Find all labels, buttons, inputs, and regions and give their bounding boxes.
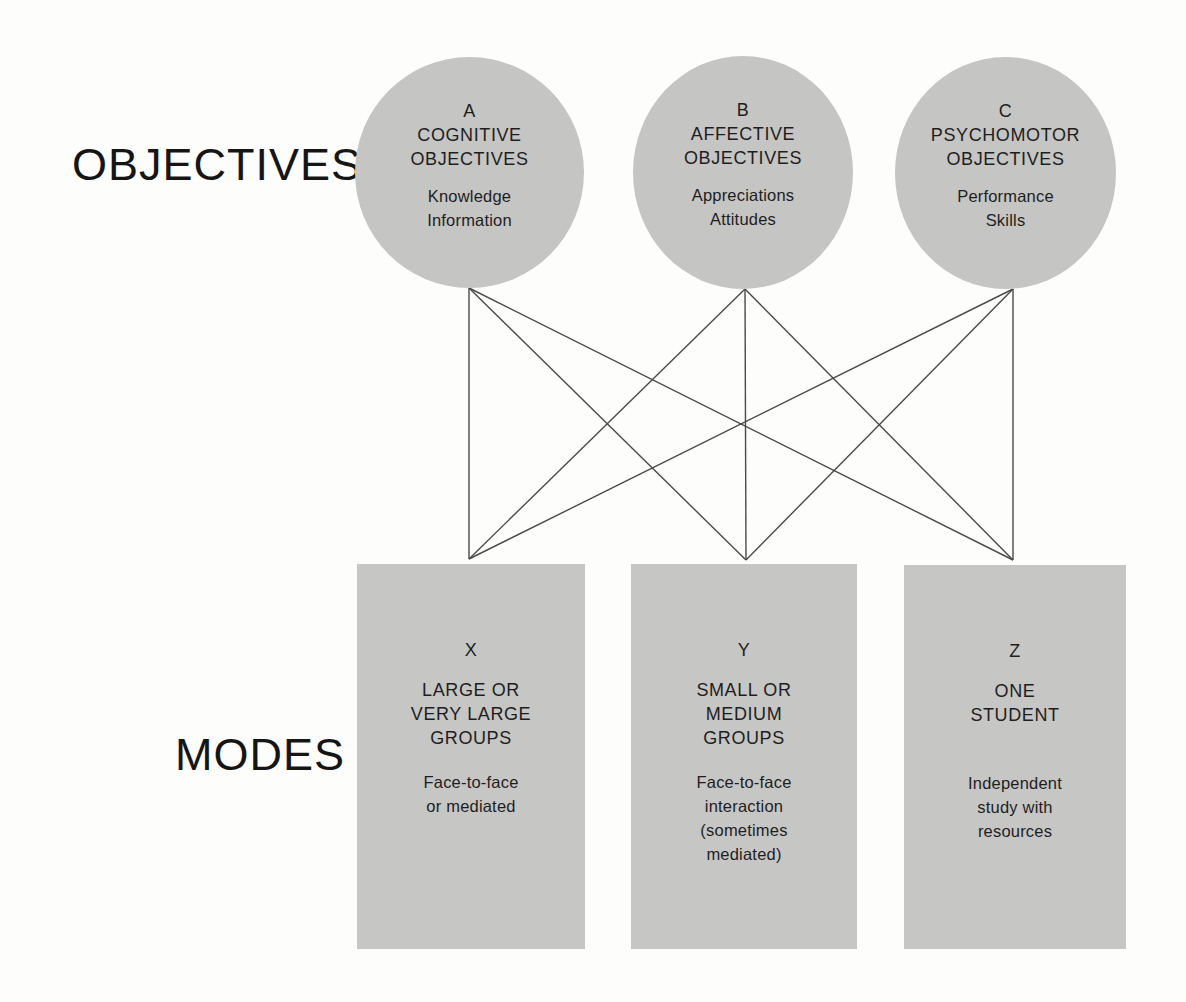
mode-subtitle: interaction bbox=[631, 794, 857, 818]
mode-box-x: X LARGE OR VERY LARGE GROUPS Face-to-fac… bbox=[357, 564, 585, 949]
mode-title: STUDENT bbox=[904, 703, 1126, 727]
mode-subtitle: or mediated bbox=[357, 794, 585, 818]
mode-title: ONE bbox=[904, 679, 1126, 703]
mode-letter: Y bbox=[631, 638, 857, 662]
mode-subtitle: Face-to-face bbox=[631, 770, 857, 794]
objective-title: COGNITIVE bbox=[355, 123, 584, 147]
mode-title: SMALL OR bbox=[631, 678, 857, 702]
mode-subtitle: study with bbox=[904, 795, 1126, 819]
mode-letter: Z bbox=[904, 639, 1126, 663]
objective-letter: C bbox=[895, 99, 1116, 123]
objective-subtitle: Skills bbox=[895, 208, 1116, 232]
objective-subtitle: Knowledge bbox=[355, 184, 584, 208]
objective-letter: B bbox=[633, 98, 853, 122]
objective-subtitle: Information bbox=[355, 208, 584, 232]
objective-letter: A bbox=[355, 99, 584, 123]
mode-subtitle: resources bbox=[904, 819, 1126, 843]
objective-title: OBJECTIVES bbox=[633, 146, 853, 170]
objective-title: OBJECTIVES bbox=[355, 147, 584, 171]
mode-box-z: Z ONE STUDENT Independent study with res… bbox=[904, 565, 1126, 949]
mode-title: VERY LARGE bbox=[357, 702, 585, 726]
objective-subtitle: Appreciations bbox=[633, 183, 853, 207]
mode-title: MEDIUM bbox=[631, 702, 857, 726]
objective-circle-b: B AFFECTIVE OBJECTIVES Appreciations Att… bbox=[633, 56, 853, 289]
mode-title: GROUPS bbox=[631, 726, 857, 750]
link-b-y bbox=[745, 289, 746, 560]
mode-title: LARGE OR bbox=[357, 678, 585, 702]
objective-circle-a: A COGNITIVE OBJECTIVES Knowledge Informa… bbox=[355, 57, 584, 288]
mode-subtitle: Independent bbox=[904, 771, 1126, 795]
mode-subtitle: (sometimes bbox=[631, 818, 857, 842]
objective-title: AFFECTIVE bbox=[633, 122, 853, 146]
mode-box-y: Y SMALL OR MEDIUM GROUPS Face-to-face in… bbox=[631, 564, 857, 949]
mode-title: GROUPS bbox=[357, 726, 585, 750]
objective-subtitle: Performance bbox=[895, 184, 1116, 208]
objective-title: PSYCHOMOTOR bbox=[895, 123, 1116, 147]
mode-subtitle: mediated) bbox=[631, 842, 857, 866]
mode-subtitle: Face-to-face bbox=[357, 770, 585, 794]
objective-subtitle: Attitudes bbox=[633, 207, 853, 231]
mode-letter: X bbox=[357, 638, 585, 662]
objective-circle-c: C PSYCHOMOTOR OBJECTIVES Performance Ski… bbox=[895, 57, 1116, 289]
objective-title: OBJECTIVES bbox=[895, 147, 1116, 171]
